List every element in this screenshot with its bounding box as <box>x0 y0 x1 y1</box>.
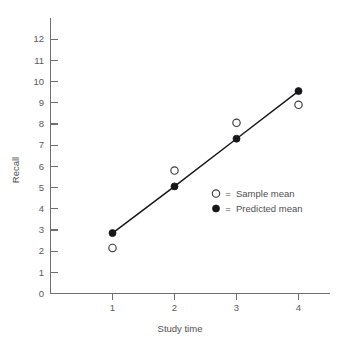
x-axis-title: Study time <box>158 323 203 334</box>
legend-equals-predicted: = <box>225 203 231 214</box>
y-axis-ticks <box>51 39 58 293</box>
y-axis-title: Recall <box>10 157 21 183</box>
chart-legend: = Sample mean = Predicted mean <box>212 188 302 214</box>
y-tick-label-6: 6 <box>39 161 44 172</box>
y-tick-label-0: 0 <box>39 288 44 299</box>
y-tick-label-7: 7 <box>39 139 44 150</box>
chart-screenshot: 0 1 2 3 4 5 6 7 8 9 10 11 12 <box>0 0 349 345</box>
y-tick-label-4: 4 <box>39 203 44 214</box>
y-tick-label-2: 2 <box>39 245 44 256</box>
legend-label-predicted-mean: Predicted mean <box>236 203 303 214</box>
y-tick-label-8: 8 <box>39 118 44 129</box>
x-axis-ticks <box>113 294 299 300</box>
x-tick-label-2: 2 <box>172 302 177 313</box>
sample-mean-point <box>295 101 302 108</box>
sample-mean-point <box>233 119 240 126</box>
legend-item-predicted-mean: = Predicted mean <box>213 203 303 214</box>
y-tick-label-10: 10 <box>33 76 44 87</box>
recall-vs-study-time-chart: 0 1 2 3 4 5 6 7 8 9 10 11 12 <box>0 0 349 345</box>
sample-mean-point <box>171 167 178 174</box>
y-tick-label-3: 3 <box>39 224 44 235</box>
legend-open-circle-icon <box>212 190 219 197</box>
y-tick-label-11: 11 <box>34 55 44 66</box>
x-axis-tick-labels: 1 2 3 4 <box>110 302 301 313</box>
y-axis-tick-labels: 0 1 2 3 4 5 6 7 8 9 10 11 12 <box>33 33 44 298</box>
y-tick-label-5: 5 <box>39 182 44 193</box>
sample-mean-series <box>109 101 302 251</box>
predicted-mean-point <box>171 183 178 190</box>
y-tick-label-12: 12 <box>33 33 44 44</box>
axes-group <box>51 18 331 294</box>
predicted-mean-point <box>295 88 302 95</box>
legend-item-sample-mean: = Sample mean <box>212 188 294 199</box>
y-tick-label-1: 1 <box>39 267 44 278</box>
predicted-mean-point <box>233 135 240 142</box>
x-tick-label-1: 1 <box>110 302 115 313</box>
x-tick-label-4: 4 <box>296 302 301 313</box>
sample-mean-point <box>109 244 116 251</box>
legend-equals-sample: = <box>225 188 231 199</box>
legend-filled-circle-icon <box>213 205 220 212</box>
predicted-mean-point <box>109 230 116 237</box>
x-tick-label-3: 3 <box>234 302 239 313</box>
legend-label-sample-mean: Sample mean <box>236 188 295 199</box>
chart-surface: 0 1 2 3 4 5 6 7 8 9 10 11 12 <box>0 0 349 345</box>
y-tick-label-9: 9 <box>39 97 44 108</box>
